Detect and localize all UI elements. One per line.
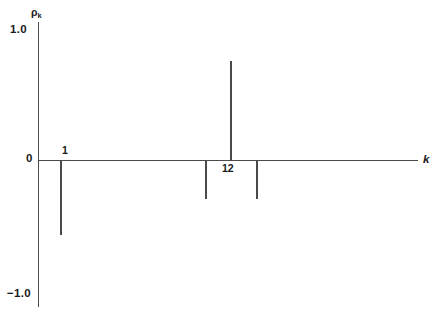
- y-axis-label-symbol: ρ: [31, 6, 38, 18]
- spike-lag-1: [60, 160, 62, 235]
- autocorrelation-chart: ρk 1.0 0 −1.0 k 1 12: [0, 0, 442, 317]
- y-tick-label-bottom: −1.0: [7, 287, 31, 299]
- y-axis-label-subscript: k: [38, 11, 42, 20]
- x-axis-line: [38, 160, 418, 161]
- spike-lag-13: [256, 160, 258, 199]
- y-axis-line: [38, 22, 39, 307]
- spike-lag-11: [205, 160, 207, 199]
- y-axis-label: ρk: [31, 6, 42, 18]
- spike-lag-12: [230, 61, 232, 160]
- x-axis-label: k: [423, 153, 429, 165]
- y-tick-label-top: 1.0: [10, 23, 27, 35]
- lag-12-label: 12: [222, 162, 234, 174]
- y-tick-label-zero: 0: [26, 152, 33, 164]
- lag-1-label: 1: [62, 144, 68, 156]
